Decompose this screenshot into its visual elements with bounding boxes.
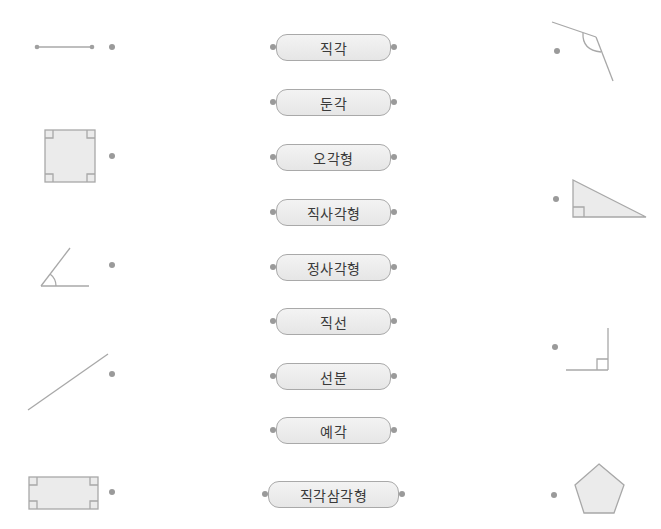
- pill-right-dot[interactable]: [391, 264, 397, 270]
- pill-right-dot[interactable]: [391, 427, 397, 433]
- right-dot-1[interactable]: [554, 48, 560, 54]
- pill-right-dot[interactable]: [391, 209, 397, 215]
- term-label[interactable]: 직사각형: [276, 199, 391, 226]
- pill-right-dot[interactable]: [391, 44, 397, 50]
- term-label[interactable]: 직선: [276, 308, 391, 335]
- term-label[interactable]: 오각형: [276, 144, 391, 171]
- left-dot-2[interactable]: [109, 153, 115, 159]
- right-angle-figure: [566, 328, 608, 370]
- pill-right-dot[interactable]: [391, 318, 397, 324]
- right-triangle-figure: [573, 180, 646, 217]
- right-dot-3[interactable]: [552, 344, 558, 350]
- term-label[interactable]: 직각: [276, 34, 391, 61]
- term-label[interactable]: 직각삼각형: [268, 481, 399, 508]
- square-figure: [45, 130, 95, 182]
- right-dot-2[interactable]: [553, 196, 559, 202]
- pill-right-dot[interactable]: [391, 373, 397, 379]
- acute-angle-figure: [41, 248, 89, 286]
- pill-right-dot[interactable]: [399, 491, 405, 497]
- right-dot-4[interactable]: [551, 492, 557, 498]
- straight-line-figure: [28, 354, 108, 410]
- rectangle-figure: [29, 477, 98, 509]
- line-segment-figure: [35, 45, 95, 50]
- pill-right-dot[interactable]: [391, 99, 397, 105]
- term-label[interactable]: 둔각: [276, 89, 391, 116]
- left-dot-1[interactable]: [109, 44, 115, 50]
- left-dot-5[interactable]: [109, 489, 115, 495]
- term-label[interactable]: 예각: [276, 417, 391, 444]
- pentagon-figure: [575, 464, 624, 513]
- obtuse-angle-figure: [552, 22, 613, 81]
- term-label[interactable]: 선분: [276, 363, 391, 390]
- term-label[interactable]: 정사각형: [276, 254, 391, 281]
- left-dot-3[interactable]: [109, 262, 115, 268]
- pill-right-dot[interactable]: [391, 154, 397, 160]
- left-dot-4[interactable]: [109, 371, 115, 377]
